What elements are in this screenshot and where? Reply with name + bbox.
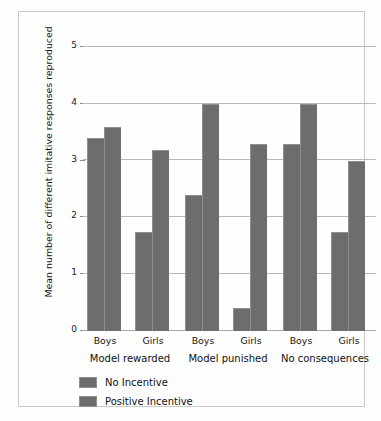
x-sub-label-model-punished-boys: Boys [180,335,226,346]
x-axis-labels: Boys Girls Model rewarded Boys Girls Mod… [83,333,376,373]
x-group-label-no-consequences: No consequences [265,353,381,364]
chart-legend: No Incentive Positive Incentive [79,374,299,412]
legend-label-positive-incentive: Positive Incentive [105,396,193,407]
x-sub-label-model-rewarded-girls: Girls [130,335,176,346]
bar-model-punished-boys-no-incentive [185,195,202,331]
figure-container: 5 4 3 2 1 0 Mean number of different imi… [0,0,381,421]
gridline-4 [83,103,376,104]
gridline-3 [83,159,376,160]
y-tick-label-0: 0 [53,325,77,334]
bar-model-rewarded-girls-no-incentive [135,232,152,331]
bar-model-rewarded-boys-positive-incentive [104,127,121,331]
bar-model-punished-girls-no-incentive [233,308,250,331]
y-tick-label-4: 4 [53,98,77,107]
bar-model-rewarded-boys-no-incentive [87,138,104,331]
x-sub-label-no-consequences-girls: Girls [326,335,372,346]
x-sub-label-no-consequences-boys: Boys [278,335,324,346]
gridline-2 [83,216,376,217]
y-tick-label-2: 2 [53,211,77,220]
legend-item-no-incentive: No Incentive [79,374,299,391]
bar-no-consequences-boys-positive-incentive [300,104,317,331]
y-axis-ticks: 5 4 3 2 1 0 [53,46,77,331]
bar-model-punished-girls-positive-incentive [250,144,267,331]
x-sub-label-model-punished-girls: Girls [228,335,274,346]
bar-no-consequences-girls-no-incentive [331,232,348,331]
x-sub-label-model-rewarded-boys: Boys [82,335,128,346]
y-tick-label-5: 5 [53,41,77,50]
legend-swatch-no-incentive [79,377,97,388]
gridline-5 [83,46,376,47]
y-tick-label-1: 1 [53,268,77,277]
y-tick-label-3: 3 [53,155,77,164]
bar-model-rewarded-girls-positive-incentive [152,150,169,331]
y-axis-label: Mean number of different imitative respo… [43,58,54,298]
bar-no-consequences-girls-positive-incentive [348,161,365,331]
bar-model-punished-boys-positive-incentive [202,104,219,331]
bar-no-consequences-boys-no-incentive [283,144,300,331]
chart-frame: 5 4 3 2 1 0 Mean number of different imi… [18,11,365,407]
plot-area [83,46,376,331]
legend-item-positive-incentive: Positive Incentive [79,393,299,410]
legend-label-no-incentive: No Incentive [105,377,168,388]
legend-swatch-positive-incentive [79,396,97,407]
